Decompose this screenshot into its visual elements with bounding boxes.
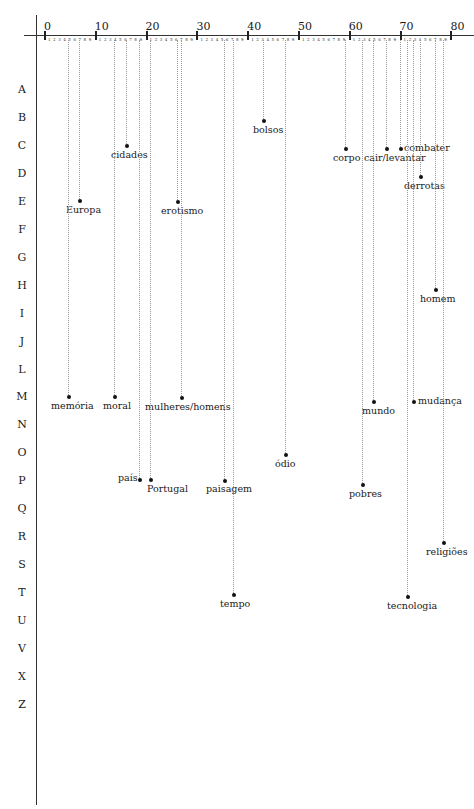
- term-label: Portugal: [147, 483, 188, 494]
- term-label: tempo: [220, 598, 250, 609]
- minor-tick-label: 7: [282, 37, 285, 42]
- term-label: mulheres/homens: [145, 401, 231, 412]
- minor-tick-label: 6: [378, 37, 381, 42]
- term-label: Europa: [66, 204, 101, 215]
- data-point-dot: [176, 200, 180, 204]
- row-label-a: A: [18, 83, 26, 96]
- data-point-dot: [406, 595, 410, 599]
- minor-tick-label: 9: [241, 37, 244, 42]
- vertical-axis: [36, 15, 37, 805]
- row-label-b: B: [18, 110, 26, 123]
- major-tick-label: 40: [247, 20, 261, 33]
- minor-tick-label: 3: [58, 37, 61, 42]
- data-point-dot: [344, 147, 348, 151]
- minor-tick-label: 5: [221, 37, 224, 42]
- guide-line: [177, 40, 178, 202]
- guide-line: [114, 40, 115, 397]
- term-label: paisagem: [206, 483, 252, 494]
- major-tick-label: 20: [146, 20, 160, 33]
- data-point-dot: [434, 288, 438, 292]
- minor-tick-label: 4: [165, 37, 168, 42]
- minor-tick-label: 2: [256, 37, 259, 42]
- term-label: pobres: [349, 488, 382, 499]
- minor-tick-label: 8: [338, 37, 341, 42]
- minor-tick-label: 1: [353, 37, 356, 42]
- data-point-dot: [125, 144, 129, 148]
- minor-tick-label: 7: [129, 37, 132, 42]
- minor-tick-label: 2: [358, 37, 361, 42]
- guide-line: [345, 40, 346, 149]
- guide-line: [68, 40, 69, 397]
- minor-tick-label: 5: [322, 37, 325, 42]
- term-label: tecnologia: [387, 600, 437, 611]
- row-label-i: I: [20, 306, 24, 319]
- minor-tick-label: 2: [155, 37, 158, 42]
- data-point-dot: [232, 593, 236, 597]
- term-label: corpo: [333, 152, 360, 163]
- major-tick-label: 50: [298, 20, 312, 33]
- row-label-s: S: [18, 558, 26, 571]
- minor-tick-label: 1: [200, 37, 203, 42]
- minor-tick-label: 4: [317, 37, 320, 42]
- data-point-dot: [372, 400, 376, 404]
- minor-tick-label: 5: [424, 37, 427, 42]
- minor-tick-label: 6: [277, 37, 280, 42]
- minor-tick-label: 9: [190, 37, 193, 42]
- row-label-p: P: [18, 474, 25, 487]
- term-label: homem: [420, 293, 455, 304]
- guide-line: [362, 40, 363, 485]
- row-label-x: X: [18, 669, 26, 682]
- guide-line: [263, 40, 264, 121]
- data-point-dot: [399, 147, 403, 151]
- guide-line: [139, 40, 140, 480]
- minor-tick-label: 2: [307, 37, 310, 42]
- row-label-q: Q: [17, 502, 26, 515]
- row-label-m: M: [16, 390, 27, 403]
- major-tick-label: 0: [44, 20, 51, 33]
- data-point-dot: [67, 395, 71, 399]
- guide-line: [79, 40, 80, 201]
- row-label-t: T: [18, 586, 25, 599]
- guide-line: [420, 40, 421, 177]
- term-label: memória: [51, 400, 94, 411]
- minor-tick-label: 6: [327, 37, 330, 42]
- term-label: mudança: [418, 395, 462, 406]
- guide-line: [435, 40, 436, 290]
- data-point-dot: [385, 147, 389, 151]
- minor-tick-label: 8: [236, 37, 239, 42]
- minor-tick-label: 4: [266, 37, 269, 42]
- major-tick-label: 80: [450, 20, 464, 33]
- guide-line: [373, 40, 374, 402]
- data-point-dot: [113, 395, 117, 399]
- data-point-dot: [78, 199, 82, 203]
- minor-tick-label: 6: [226, 37, 229, 42]
- minor-tick-label: 9: [89, 37, 92, 42]
- term-label: ódio: [275, 458, 296, 469]
- guide-line: [285, 40, 286, 455]
- guide-line: [413, 40, 414, 402]
- minor-tick-label: 6: [429, 37, 432, 42]
- minor-tick-label: 3: [363, 37, 366, 42]
- data-point-dot: [180, 396, 184, 400]
- term-label: cidades: [111, 149, 148, 160]
- guide-line: [181, 40, 182, 398]
- minor-tick-label: 9: [444, 37, 447, 42]
- term-label: religiões: [426, 546, 468, 557]
- row-label-d: D: [18, 166, 27, 179]
- term-distribution-diagram: 0123456789101234567892012345678930123456…: [0, 0, 474, 809]
- term-label: bolsos: [253, 124, 283, 135]
- guide-line: [386, 40, 387, 149]
- minor-tick-label: 1: [251, 37, 254, 42]
- minor-tick-label: 3: [211, 37, 214, 42]
- minor-tick-label: 4: [216, 37, 219, 42]
- guide-line: [126, 40, 127, 146]
- row-label-e: E: [18, 194, 26, 207]
- minor-tick-label: 5: [272, 37, 275, 42]
- guide-line: [443, 40, 444, 543]
- minor-tick-label: 2: [205, 37, 208, 42]
- minor-tick-label: 2: [409, 37, 412, 42]
- minor-tick-label: 8: [84, 37, 87, 42]
- row-label-v: V: [18, 642, 26, 655]
- data-point-dot: [442, 541, 446, 545]
- data-point-dot: [149, 478, 153, 482]
